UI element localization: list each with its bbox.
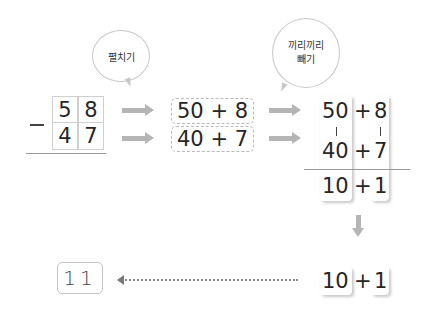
ones-bottom: 7 [374, 141, 387, 162]
speech-bubble-expand: 펼치기 [92, 30, 150, 82]
tens-top: 50 [322, 101, 349, 122]
tens-result: 10 [322, 176, 349, 197]
expanded-row-2: 40 + 7 [171, 126, 254, 152]
answer-box: 11 [57, 262, 103, 294]
digit-ones-top: 8 [84, 98, 97, 122]
plus-sign: + [354, 141, 372, 162]
digit-cell: 4 [52, 123, 78, 150]
bubble-tail-icon [278, 82, 287, 93]
digit-tens-bottom: 4 [58, 124, 71, 148]
tens-bottom: 40 [322, 141, 349, 162]
arrow-right-icon [122, 108, 146, 113]
digit-cell: 7 [78, 123, 104, 150]
digit-ones-bottom: 7 [84, 124, 97, 148]
plus-sign: + [354, 101, 372, 122]
arrow-down-head [352, 228, 364, 237]
dotted-arrow-line [122, 279, 298, 281]
final-tens: 10 [322, 271, 349, 292]
ones-connector [380, 127, 381, 136]
ones-result: 1 [374, 176, 387, 197]
answer-value: 11 [63, 266, 96, 290]
result-line [304, 169, 410, 170]
bubble-label-expand: 펼치기 [108, 49, 135, 64]
ones-top: 8 [374, 101, 387, 122]
arrow-left-icon [117, 275, 124, 285]
final-plus: + [354, 271, 372, 292]
plus-sign: + [354, 176, 372, 197]
arrow-right-icon [269, 108, 293, 113]
expanded-row-1: 50 + 8 [171, 98, 254, 124]
vertical-subtraction-grid: 5 8 4 7 [52, 96, 106, 152]
digit-cell: 8 [78, 96, 104, 123]
expanded-text-2: 40 + 7 [177, 127, 248, 151]
digit-cell: 5 [52, 96, 78, 123]
expanded-text-1: 50 + 8 [177, 99, 248, 123]
arrow-down-icon [356, 215, 361, 229]
digit-tens-top: 5 [58, 98, 71, 122]
arrow-right-icon [269, 136, 293, 141]
bubble-label-line2: 빼기 [297, 53, 315, 67]
speech-bubble-subtract-by-place: 끼리끼리 빼기 [272, 18, 340, 88]
result-line [26, 153, 106, 154]
minus-sign [30, 124, 44, 126]
arrow-right-icon [122, 136, 146, 141]
final-ones: 1 [374, 271, 387, 292]
bubble-label-line1: 끼리끼리 [288, 39, 324, 53]
tens-connector [336, 127, 337, 136]
